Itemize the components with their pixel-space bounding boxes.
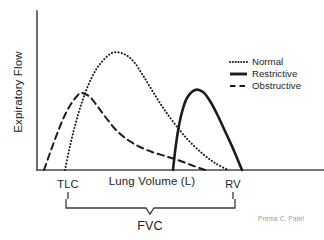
credit-text: Prema C. Patel xyxy=(258,215,304,222)
curve-restrictive xyxy=(173,90,242,170)
legend-label-obstructive: Obstructive xyxy=(252,80,301,91)
fvc-brace xyxy=(66,199,235,214)
legend-label-normal: Normal xyxy=(252,56,283,67)
marker-label-tlc: TLC xyxy=(57,178,78,190)
y-axis-label: Expiratory Flow xyxy=(12,51,24,133)
legend-label-restrictive: Restrictive xyxy=(252,68,297,79)
chart-canvas: Expiratory Flow Lung Volume (L) TLC RV F… xyxy=(0,0,324,240)
curve-normal xyxy=(65,52,228,170)
x-axis-label: Lung Volume (L) xyxy=(109,175,196,187)
flow-volume-chart: Expiratory Flow Lung Volume (L) TLC RV F… xyxy=(0,0,324,240)
fvc-label: FVC xyxy=(137,219,163,233)
chart-legend: Normal Restrictive Obstructive xyxy=(230,56,301,91)
marker-label-rv: RV xyxy=(225,178,241,190)
